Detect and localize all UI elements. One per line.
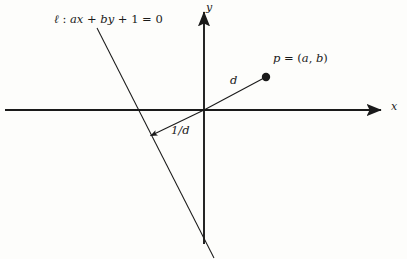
equals-sign: = [138,12,155,26]
point-p-dot [262,73,270,81]
plus-two: + [114,12,131,26]
point-comma: , [309,51,316,65]
figure-canvas: x y ℓ : ax + by + 1 = 0 p = (a, b) d 1/d [0,0,407,259]
line-colon: : [59,12,70,26]
point-p-label: p = (a, b) [273,53,328,65]
coef-a: a [70,12,77,26]
x-axis-label: x [391,101,397,112]
line-ell [97,28,214,258]
diagram-svg [0,0,407,259]
plus-one: + [83,12,100,26]
constant-zero: 0 [155,12,162,26]
line-equation-label: ℓ : ax + by + 1 = 0 [54,14,163,26]
point-paren-close: ) [323,51,328,65]
point-equals: = ( [280,51,301,65]
distance-d-label: d [230,75,237,87]
point-coord-a: a [302,51,309,65]
reciprocal-distance-label: 1/d [171,125,190,137]
y-axis-label: y [206,2,212,13]
coef-b: b [100,12,107,26]
